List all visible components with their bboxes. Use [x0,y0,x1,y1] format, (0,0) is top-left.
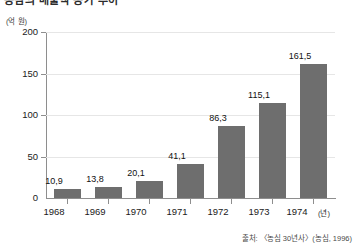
x-label-1968: 1968 [31,206,77,217]
bar-1971[interactable] [177,164,204,198]
y-tick-label-0: 0 [2,193,38,203]
x-tick-6 [313,199,314,204]
y-tick-label-50: 50 [2,152,38,162]
chart-title: 농심의 매출액 증가 추이 [4,0,118,7]
bar-1968[interactable] [54,189,81,198]
x-tick-5 [272,199,273,204]
x-axis-unit-label: (년) [318,207,330,218]
gridline-150 [46,74,335,75]
y-axis-unit-label: (억 원) [6,15,27,26]
x-tick-4 [231,199,232,204]
bar-value-1974: 161,5 [277,52,323,61]
x-axis-line [46,198,336,199]
bar-value-1971: 41,1 [154,152,200,161]
bar-value-1968: 10,9 [31,177,77,186]
bar-1972[interactable] [218,126,245,198]
x-tick-3 [190,199,191,204]
x-tick-1 [108,199,109,204]
x-tick-2 [149,199,150,204]
gridline-200 [46,32,335,33]
x-label-1974: 1974 [274,206,320,217]
bar-1974[interactable] [300,64,327,198]
source-note: 출처: 〈농심 30년사〉(농심, 1996) [242,232,352,243]
bar-1973[interactable] [259,103,286,199]
bar-value-1973: 115,1 [236,91,282,100]
y-tick-label-100: 100 [2,110,38,120]
x-label-1971: 1971 [154,206,200,217]
y-tick-label-150: 150 [2,69,38,79]
x-label-1969: 1969 [72,206,118,217]
x-label-1970: 1970 [113,206,159,217]
bar-1970[interactable] [136,181,163,198]
bar-value-1969: 13,8 [72,175,118,184]
bar-1969[interactable] [95,187,122,199]
y-tick-label-200: 200 [2,27,38,37]
gridline-100 [46,115,335,116]
x-label-1972: 1972 [195,206,241,217]
bar-value-1972: 86,3 [195,114,241,123]
bar-value-1970: 20,1 [113,169,159,178]
x-tick-0 [67,199,68,204]
